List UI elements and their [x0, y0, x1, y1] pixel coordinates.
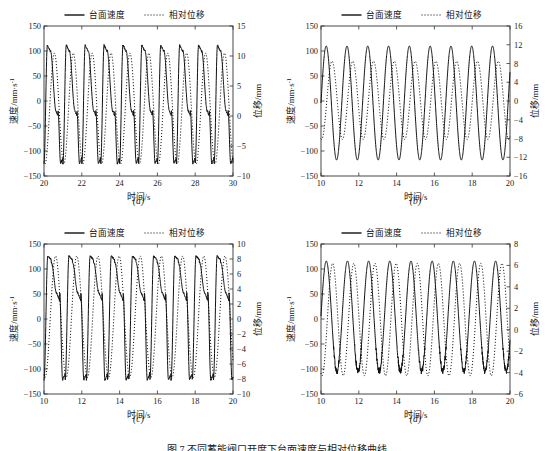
svg-text:台面速度: 台面速度 — [366, 227, 402, 238]
svg-text:0: 0 — [514, 97, 518, 106]
svg-text:18: 18 — [468, 397, 476, 406]
svg-text:14: 14 — [392, 397, 401, 406]
svg-text:−100: −100 — [24, 365, 41, 374]
svg-text:8: 8 — [514, 240, 518, 249]
svg-text:22: 22 — [78, 179, 86, 188]
svg-text:0: 0 — [237, 112, 241, 121]
svg-text:−6: −6 — [514, 390, 523, 399]
svg-text:100: 100 — [28, 265, 41, 274]
svg-text:0: 0 — [37, 315, 41, 324]
svg-text:−10: −10 — [237, 390, 250, 399]
svg-text:16: 16 — [430, 397, 438, 406]
svg-text:6: 6 — [237, 270, 241, 279]
svg-text:50: 50 — [33, 290, 41, 299]
svg-text:20: 20 — [40, 179, 48, 188]
svg-text:相对位移: 相对位移 — [169, 227, 205, 238]
svg-text:26: 26 — [153, 179, 161, 188]
svg-text:0: 0 — [237, 315, 241, 324]
subplot-label-d: (d) — [277, 414, 554, 424]
svg-text:速度/mm·s-1: 速度/mm·s-1 — [285, 296, 296, 342]
svg-text:位移/mm: 位移/mm — [529, 84, 540, 118]
svg-text:−150: −150 — [24, 390, 41, 399]
svg-text:−100: −100 — [24, 147, 41, 156]
svg-text:位移/mm: 位移/mm — [529, 302, 540, 336]
figure-caption: 图 7 不同蓄能阀口开度下台面速度与相对位移曲线 — [0, 441, 554, 451]
svg-text:−150: −150 — [24, 172, 41, 181]
svg-text:12: 12 — [355, 397, 363, 406]
svg-text:16: 16 — [430, 179, 438, 188]
svg-text:位移/mm: 位移/mm — [252, 84, 263, 118]
svg-text:20: 20 — [506, 397, 514, 406]
svg-text:10: 10 — [40, 397, 48, 406]
svg-text:10: 10 — [317, 179, 325, 188]
subplot-c: 101214161820−150−100−50050100150−10−8−6−… — [0, 218, 277, 436]
svg-text:150: 150 — [305, 22, 318, 31]
svg-text:15: 15 — [237, 22, 245, 31]
svg-text:4: 4 — [237, 285, 242, 294]
svg-text:16: 16 — [514, 22, 522, 31]
svg-text:20: 20 — [229, 397, 237, 406]
svg-text:2: 2 — [514, 304, 518, 313]
svg-text:−100: −100 — [301, 365, 318, 374]
svg-text:30: 30 — [229, 179, 237, 188]
svg-text:速度/mm·s-1: 速度/mm·s-1 — [285, 78, 296, 124]
svg-text:速度/mm·s-1: 速度/mm·s-1 — [8, 78, 19, 124]
svg-text:−6: −6 — [237, 360, 246, 369]
svg-text:50: 50 — [310, 290, 318, 299]
svg-text:−150: −150 — [301, 172, 318, 181]
svg-text:8: 8 — [514, 60, 518, 69]
svg-text:0: 0 — [514, 326, 518, 335]
svg-text:−150: −150 — [301, 390, 318, 399]
svg-text:台面速度: 台面速度 — [89, 227, 125, 238]
svg-text:18: 18 — [468, 179, 476, 188]
svg-text:−50: −50 — [28, 122, 41, 131]
svg-text:−12: −12 — [514, 153, 527, 162]
plot-canvas-c: 101214161820−150−100−50050100150−10−8−6−… — [0, 218, 277, 436]
plot-canvas-d: 101214161820−150−100−50050100150−6−4−202… — [277, 218, 554, 436]
svg-text:150: 150 — [305, 240, 318, 249]
svg-text:−4: −4 — [514, 116, 524, 125]
svg-text:−16: −16 — [514, 172, 527, 181]
svg-text:−8: −8 — [237, 375, 246, 384]
svg-text:24: 24 — [115, 179, 124, 188]
svg-text:4: 4 — [514, 283, 519, 292]
svg-text:18: 18 — [191, 397, 199, 406]
svg-text:−50: −50 — [305, 122, 318, 131]
svg-text:10: 10 — [317, 397, 325, 406]
svg-text:50: 50 — [310, 72, 318, 81]
svg-text:−50: −50 — [305, 340, 318, 349]
figure-root: 202224262830−150−100−50050100150−10−5051… — [0, 0, 554, 451]
svg-text:5: 5 — [237, 82, 241, 91]
svg-text:8: 8 — [237, 255, 241, 264]
svg-text:−10: −10 — [237, 172, 250, 181]
svg-text:100: 100 — [305, 47, 318, 56]
svg-text:16: 16 — [153, 397, 161, 406]
svg-text:速度/mm·s-1: 速度/mm·s-1 — [8, 296, 19, 342]
svg-text:14: 14 — [392, 179, 401, 188]
svg-text:−2: −2 — [514, 347, 523, 356]
svg-text:12: 12 — [514, 41, 522, 50]
svg-text:−4: −4 — [237, 345, 247, 354]
plot-canvas-a: 202224262830−150−100−50050100150−10−5051… — [0, 0, 277, 218]
svg-text:12: 12 — [355, 179, 363, 188]
svg-text:相对位移: 相对位移 — [169, 9, 205, 20]
plot-canvas-b: 101214161820−150−100−50050100150−16−12−8… — [277, 0, 554, 218]
svg-text:6: 6 — [514, 261, 518, 270]
subplot-label-b: (b) — [277, 196, 554, 206]
svg-text:0: 0 — [37, 97, 41, 106]
subplot-a: 202224262830−150−100−50050100150−10−5051… — [0, 0, 277, 218]
svg-text:20: 20 — [506, 179, 514, 188]
svg-text:台面速度: 台面速度 — [366, 9, 402, 20]
svg-text:相对位移: 相对位移 — [446, 9, 482, 20]
svg-text:相对位移: 相对位移 — [446, 227, 482, 238]
svg-text:−8: −8 — [514, 135, 523, 144]
svg-text:4: 4 — [514, 78, 519, 87]
svg-text:28: 28 — [191, 179, 199, 188]
svg-text:100: 100 — [28, 47, 41, 56]
svg-text:10: 10 — [237, 240, 245, 249]
svg-text:0: 0 — [314, 315, 318, 324]
svg-text:0: 0 — [314, 97, 318, 106]
svg-text:−100: −100 — [301, 147, 318, 156]
svg-text:位移/mm: 位移/mm — [252, 302, 263, 336]
svg-text:−50: −50 — [28, 340, 41, 349]
